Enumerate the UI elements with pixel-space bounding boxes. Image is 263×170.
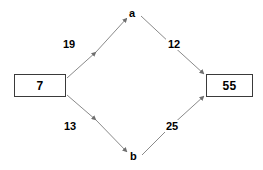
node-source-box: 7 bbox=[14, 74, 66, 97]
edge-weight-7-to-a: 19 bbox=[61, 38, 77, 50]
node-b-label: b bbox=[128, 150, 139, 162]
edge-weight-b-to-55: 25 bbox=[164, 120, 180, 132]
node-a-label: a bbox=[127, 7, 137, 19]
node-sink-box: 55 bbox=[206, 74, 253, 97]
edge-weight-7-to-b: 13 bbox=[62, 120, 78, 132]
edge-weight-a-to-55: 12 bbox=[166, 38, 182, 50]
diagram-canvas: 7 55 a b 19 12 13 25 bbox=[0, 0, 263, 170]
